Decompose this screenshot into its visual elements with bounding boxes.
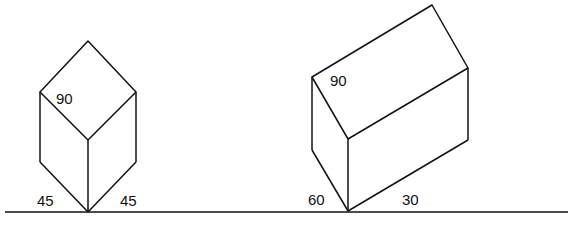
left-cube [40,41,136,212]
projection-diagram [0,0,580,227]
left-top-angle-label: 90 [56,91,73,106]
right-top-angle-label: 90 [330,73,347,88]
left-bottom-left-angle-label: 45 [37,193,54,208]
right-bottom-right-angle-label: 30 [402,192,419,207]
right-bottom-left-angle-label: 60 [308,192,325,207]
left-bottom-right-angle-label: 45 [120,193,137,208]
right-box [312,5,468,211]
